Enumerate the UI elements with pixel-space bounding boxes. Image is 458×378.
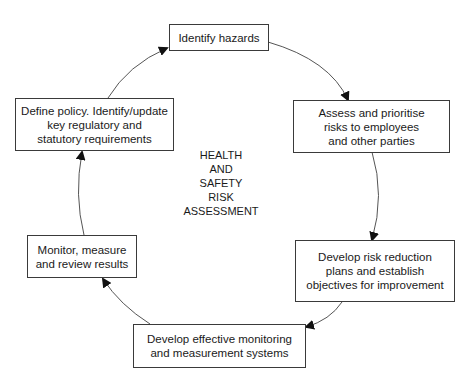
- node-text: Assess and prioritise: [318, 106, 424, 120]
- node-text: and measurement systems: [147, 346, 292, 360]
- node-identify-hazards: Identify hazards: [169, 24, 269, 51]
- arrow-monitor-to-policy: [78, 152, 84, 235]
- node-text: statutory requirements: [21, 132, 168, 146]
- node-text: and other parties: [318, 134, 424, 148]
- node-develop-risk-reduction: Develop risk reduction plans and establi…: [295, 240, 455, 302]
- node-text: and review results: [36, 257, 129, 271]
- node-text: key regulatory and: [21, 118, 168, 132]
- node-text: objectives for improvement: [306, 278, 443, 292]
- center-title-line: RISK: [175, 190, 267, 204]
- node-assess-prioritise: Assess and prioritise risks to employees…: [293, 100, 450, 153]
- arrow-identify-to-assess: [268, 42, 348, 100]
- arrow-riskreduction-to-monitoring: [306, 302, 342, 327]
- node-develop-monitoring: Develop effective monitoring and measure…: [133, 324, 306, 368]
- arrow-policy-to-identify: [108, 48, 167, 98]
- node-text: Identify hazards: [178, 31, 259, 45]
- node-text: Define policy. Identify/update: [21, 104, 168, 118]
- node-text: risks to employees: [318, 120, 424, 134]
- arrow-assess-to-riskreduction: [372, 152, 379, 240]
- center-title-line: AND: [175, 162, 267, 176]
- center-title-line: SAFETY: [175, 176, 267, 190]
- node-monitor-review: Monitor, measure and review results: [27, 235, 137, 278]
- node-text: Develop effective monitoring: [147, 332, 292, 346]
- arrow-monitoring-to-monitor: [103, 279, 150, 324]
- center-title-line: ASSESSMENT: [175, 204, 267, 218]
- node-text: Develop risk reduction: [306, 250, 443, 264]
- node-text: plans and establish: [306, 264, 443, 278]
- node-define-policy: Define policy. Identify/update key regul…: [15, 98, 174, 151]
- center-title: HEALTH AND SAFETY RISK ASSESSMENT: [175, 148, 267, 218]
- center-title-line: HEALTH: [175, 148, 267, 162]
- node-text: Monitor, measure: [36, 243, 129, 257]
